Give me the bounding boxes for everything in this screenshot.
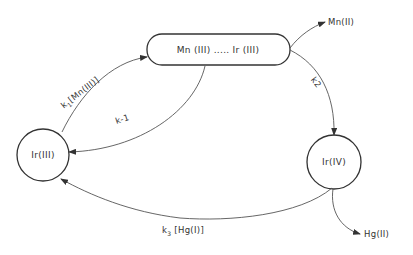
edge-hg2-arrow [332, 189, 360, 234]
ir3-node-label: Ir(III) [31, 150, 54, 160]
k3-concentration: [Hg(I)] [171, 225, 204, 235]
diagram-graphics [0, 0, 413, 255]
edge-k2-arrow [290, 50, 334, 135]
ir4-node-label: Ir(IV) [322, 157, 346, 167]
hg2-product-label: Hg(II) [364, 229, 389, 239]
edge-k3-label: k3 [Hg(I)] [162, 225, 204, 237]
complex-node-label: Mn (III) ..... Ir (III) [177, 45, 259, 55]
reaction-cycle-diagram: Mn (III) ..... Ir (III) Ir(III) Ir(IV) M… [0, 0, 413, 255]
edge-k3-arrow [61, 179, 332, 219]
edge-mn2-arrow [290, 22, 325, 48]
mn2-product-label: Mn(II) [328, 17, 354, 27]
